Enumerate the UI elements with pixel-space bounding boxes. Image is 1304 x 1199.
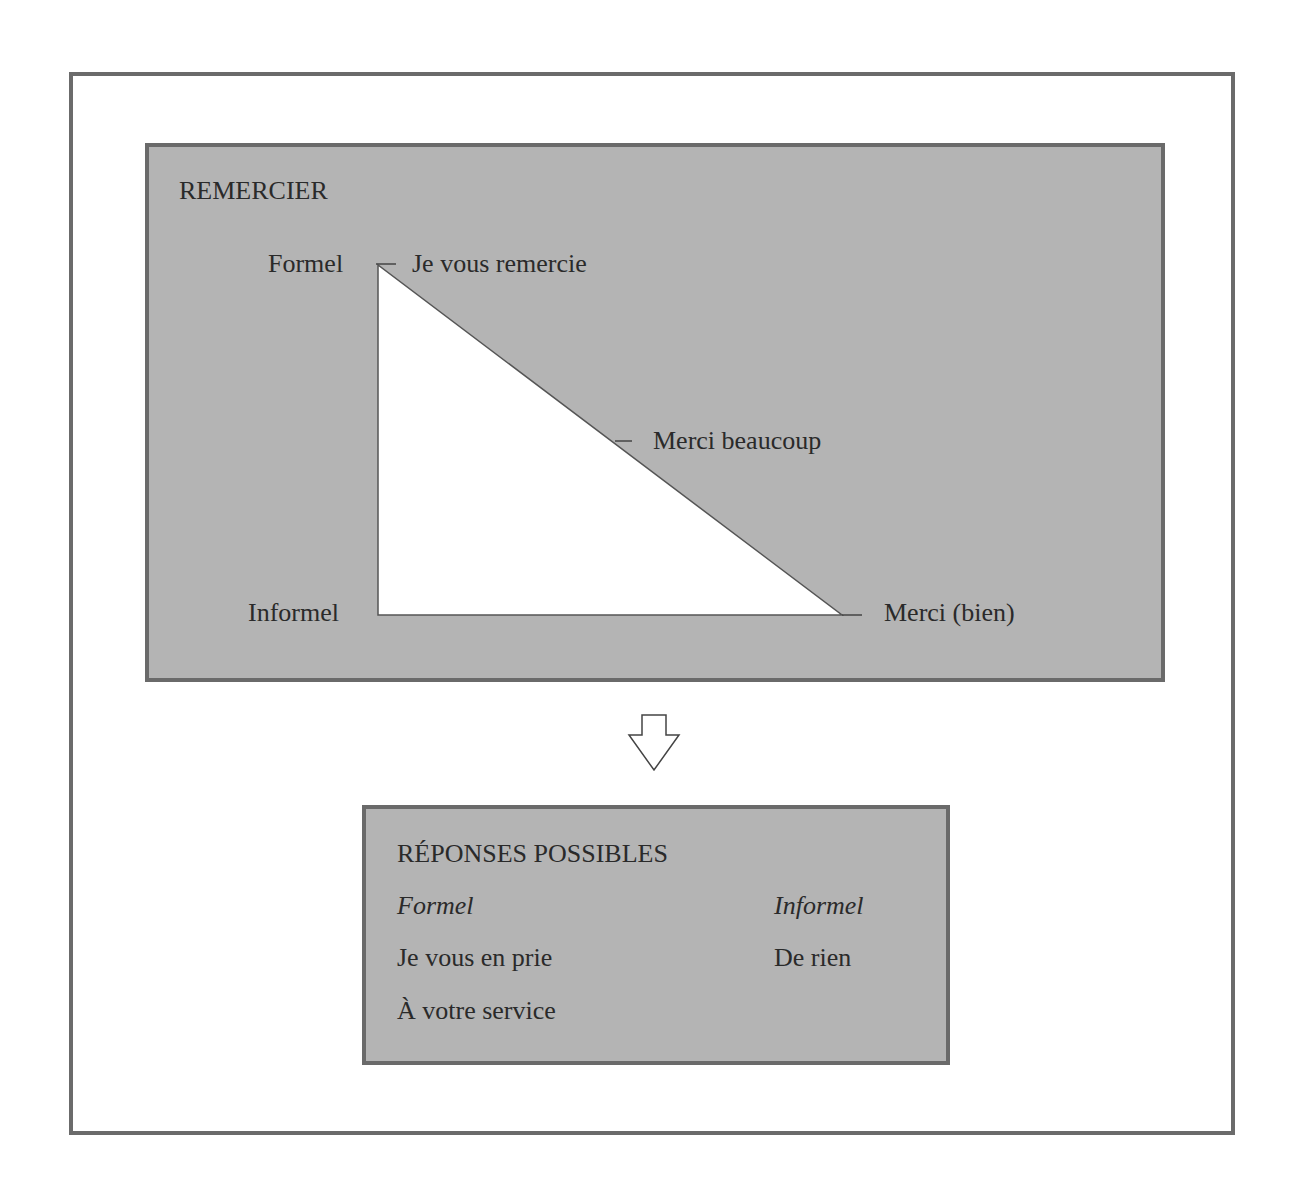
remercier-title: REMERCIER [179,176,328,206]
hollow-down-arrow-icon [629,715,679,770]
expression-merci-bien: Merci (bien) [884,598,1015,628]
reponses-title: RÉPONSES POSSIBLES [397,839,668,869]
expression-je-vous-remercie: Je vous remercie [412,249,587,279]
column-header-formel: Formel [397,891,474,921]
response-a-votre-service: À votre service [397,996,556,1026]
expression-merci-beaucoup: Merci beaucoup [653,426,821,456]
column-header-informel: Informel [774,891,864,921]
axis-label-formel: Formel [268,249,343,279]
response-de-rien: De rien [774,943,851,973]
response-je-vous-en-prie: Je vous en prie [397,943,552,973]
axis-label-informel: Informel [248,598,339,628]
